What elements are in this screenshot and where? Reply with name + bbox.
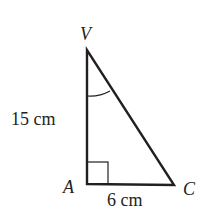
vertex-label-v: V bbox=[80, 25, 91, 43]
triangle-diagram bbox=[0, 0, 214, 211]
side-label-va: 15 cm bbox=[11, 110, 56, 128]
triangle-vac bbox=[87, 50, 174, 185]
angle-arc-v bbox=[87, 91, 110, 96]
vertex-label-a: A bbox=[63, 178, 74, 196]
right-angle-marker bbox=[87, 162, 108, 184]
vertex-label-c: C bbox=[183, 180, 195, 198]
side-label-ac: 6 cm bbox=[107, 191, 143, 209]
